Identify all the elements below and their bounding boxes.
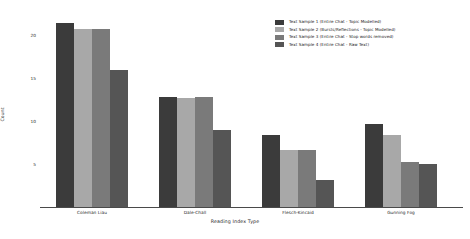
x-axis-tick-label: Dale-Chall (184, 210, 207, 215)
y-axis-ticks: 5101520 (0, 0, 36, 239)
bar[interactable] (383, 135, 401, 207)
bar[interactable] (177, 98, 195, 207)
bar[interactable] (159, 97, 177, 207)
x-axis-tick-label: Coleman Liau (77, 210, 107, 215)
x-axis-label: Reading Index Type (0, 219, 470, 224)
y-axis-tick-label: 10 (30, 119, 36, 124)
bar[interactable] (401, 162, 419, 207)
bar[interactable] (262, 135, 280, 207)
bar-group (365, 14, 437, 207)
y-axis-tick-label: 5 (33, 162, 36, 167)
y-axis-tick-label: 15 (30, 76, 36, 81)
bar[interactable] (110, 70, 128, 207)
plot-area (40, 14, 462, 207)
x-axis-tick-label: Flesch-Kincaid (282, 210, 314, 215)
bar[interactable] (92, 29, 110, 207)
bar-group (159, 14, 231, 207)
bar[interactable] (298, 150, 316, 207)
bar[interactable] (365, 124, 383, 207)
bar[interactable] (213, 130, 231, 207)
bar-group (56, 14, 128, 207)
bar[interactable] (74, 29, 92, 207)
bar[interactable] (56, 23, 74, 207)
bar-chart-figure: Text Sample 1 (Entire Chat - Topic Model… (0, 0, 470, 239)
x-axis-tick-label: Gunning Fog (387, 210, 415, 215)
x-axis-line (40, 207, 463, 208)
bar-group (262, 14, 334, 207)
bar[interactable] (195, 97, 213, 207)
bar[interactable] (316, 180, 334, 207)
bar[interactable] (280, 150, 298, 207)
y-axis-label: Count (0, 107, 5, 121)
bar[interactable] (419, 164, 437, 207)
y-axis-tick-label: 20 (30, 33, 36, 38)
